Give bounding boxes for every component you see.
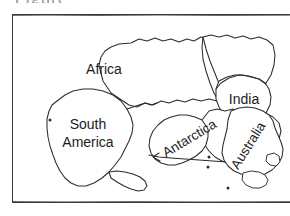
figure-page: Figure <box>0 0 290 216</box>
coastal-speck-b <box>207 166 210 169</box>
label-south-america-line1: South <box>70 116 107 132</box>
coastal-speck-a <box>208 156 211 159</box>
coastal-speck-c <box>227 187 230 190</box>
coastal-speck-west <box>49 119 52 122</box>
cropped-caption-text: Figure <box>14 0 134 3</box>
map-frame: Africa India South America Antarctica Au… <box>12 14 290 203</box>
label-india: India <box>229 91 260 107</box>
label-south-america-line2: America <box>62 134 114 150</box>
gondwana-map: Africa India South America Antarctica Au… <box>13 15 290 203</box>
label-africa: Africa <box>86 61 122 77</box>
landmass-south-america-tail <box>109 171 147 191</box>
